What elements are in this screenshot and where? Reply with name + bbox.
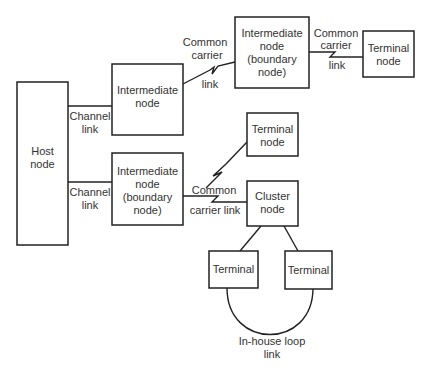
channel-link-bottom-label-1: Channel bbox=[70, 186, 111, 198]
loop-label-2: link bbox=[264, 348, 281, 360]
intermediate-node-top-label-2: node bbox=[135, 97, 159, 109]
common-carrier-upper-label-1: Common bbox=[183, 36, 228, 48]
terminal-node-top-label-2: node bbox=[376, 55, 400, 67]
network-diagram: Host node Intermediate node Intermediate… bbox=[0, 0, 431, 370]
terminal-right-label: Terminal bbox=[288, 264, 330, 276]
intermediate-boundary-top-label-1: Intermediate bbox=[241, 27, 302, 39]
channel-link-top-label-2: link bbox=[82, 123, 99, 135]
common-carrier-link-lower-label: Common carrier link bbox=[190, 184, 241, 216]
intermediate-boundary-top-label-4: node) bbox=[258, 66, 286, 78]
cluster-node: Cluster node bbox=[247, 181, 298, 226]
common-carrier-right-label-2: carrier bbox=[320, 39, 352, 51]
common-carrier-link-lower-line bbox=[183, 196, 247, 202]
common-carrier-lower-label-2: carrier link bbox=[190, 204, 241, 216]
intermediate-node-top: Intermediate node bbox=[112, 64, 183, 135]
in-house-loop-arc bbox=[227, 288, 313, 335]
host-node-label-2: node bbox=[30, 158, 54, 170]
cluster-to-terminal-left-line bbox=[240, 226, 261, 251]
terminal-node-middle-label-2: node bbox=[260, 136, 284, 148]
common-carrier-link-branch-line bbox=[206, 142, 247, 188]
intermediate-boundary-top-label-2: node bbox=[260, 40, 284, 52]
terminal-left: Terminal bbox=[209, 251, 258, 288]
terminal-node-top: Terminal node bbox=[363, 31, 414, 77]
channel-link-top-label: Channel link bbox=[70, 110, 111, 135]
intermediate-boundary-node-top: Intermediate node (boundary node) bbox=[235, 17, 309, 88]
common-carrier-upper-label-3: link bbox=[202, 78, 219, 90]
intermediate-bottom-label-4: node) bbox=[133, 204, 161, 216]
cluster-node-label-2: node bbox=[260, 203, 284, 215]
intermediate-bottom-label-3: (boundary bbox=[123, 191, 173, 203]
common-carrier-upper-label-2: carrier bbox=[191, 49, 223, 61]
intermediate-boundary-top-label-3: (boundary bbox=[247, 53, 297, 65]
common-carrier-link-right-line bbox=[309, 52, 363, 57]
intermediate-bottom-label-2: node bbox=[135, 178, 159, 190]
in-house-loop-link-label: In-house loop link bbox=[239, 335, 306, 360]
intermediate-bottom-label-1: Intermediate bbox=[117, 165, 178, 177]
common-carrier-right-label-3: link bbox=[329, 59, 346, 71]
common-carrier-link-right-label: Common carrier link bbox=[314, 27, 359, 71]
terminal-right: Terminal bbox=[285, 251, 332, 289]
terminal-node-middle: Terminal node bbox=[247, 113, 298, 156]
cluster-to-terminal-right-line bbox=[284, 226, 298, 251]
intermediate-node-top-label-1: Intermediate bbox=[117, 84, 178, 96]
host-node: Host node bbox=[17, 82, 68, 245]
common-carrier-link-upper-label: Common carrier link bbox=[183, 36, 228, 90]
loop-label-1: In-house loop bbox=[239, 335, 306, 347]
host-node-label-1: Host bbox=[31, 145, 54, 157]
common-carrier-right-label-1: Common bbox=[314, 27, 359, 39]
cluster-node-label-1: Cluster bbox=[255, 190, 290, 202]
terminal-left-label: Terminal bbox=[213, 263, 255, 275]
channel-link-top-label-1: Channel bbox=[70, 110, 111, 122]
channel-link-bottom-label: Channel link bbox=[70, 186, 111, 211]
terminal-node-top-label-1: Terminal bbox=[368, 42, 410, 54]
terminal-node-middle-label-1: Terminal bbox=[252, 123, 294, 135]
intermediate-boundary-node-bottom: Intermediate node (boundary node) bbox=[112, 153, 183, 225]
channel-link-bottom-label-2: link bbox=[82, 199, 99, 211]
common-carrier-lower-label-1: Common bbox=[192, 184, 237, 196]
